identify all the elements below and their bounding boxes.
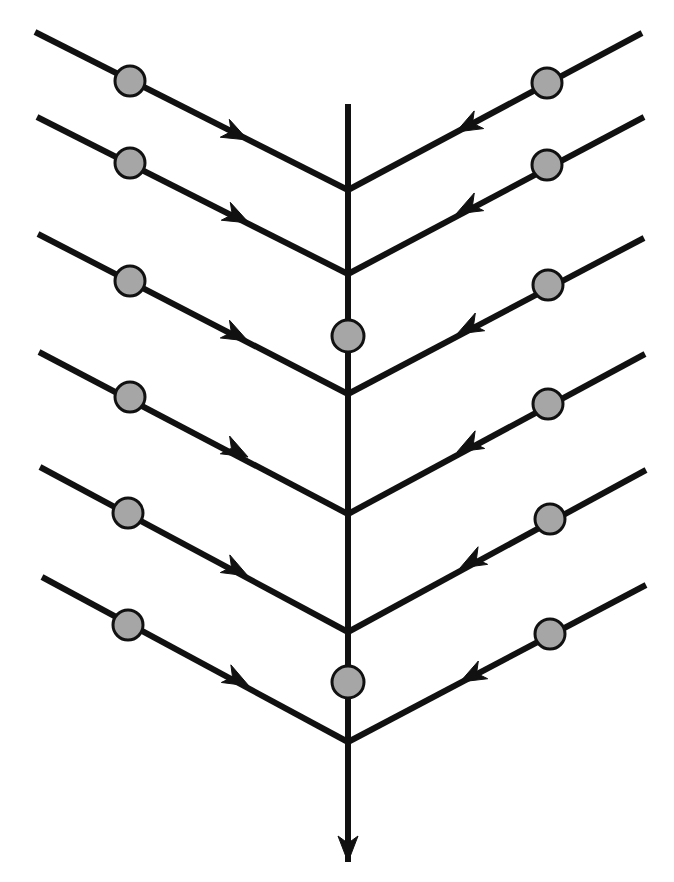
right-branch-4-node <box>533 389 563 419</box>
herringbone-diagram-canvas <box>0 0 674 882</box>
left-branch-1-node-circle[interactable] <box>115 66 145 96</box>
right-branch-3-node <box>533 270 563 300</box>
left-branch-4-node <box>115 382 145 412</box>
right-branch-5-node <box>535 504 565 534</box>
right-branch-2-node <box>532 150 562 180</box>
right-branch-1-node <box>532 68 562 98</box>
right-branch-2-node-circle[interactable] <box>532 150 562 180</box>
left-branch-6-node <box>113 610 143 640</box>
right-branch-1-node-circle[interactable] <box>532 68 562 98</box>
spine-node-1[interactable] <box>332 320 364 352</box>
right-branch-3-node-circle[interactable] <box>533 270 563 300</box>
right-branch-6-node <box>535 619 565 649</box>
left-branch-3-node <box>115 266 145 296</box>
right-branch-6-node-circle[interactable] <box>535 619 565 649</box>
left-branch-6-node-circle[interactable] <box>113 610 143 640</box>
left-branch-3-node-circle[interactable] <box>115 266 145 296</box>
left-branch-2-node-circle[interactable] <box>115 148 145 178</box>
canvas-background <box>0 0 674 882</box>
diagram-root <box>0 0 674 882</box>
left-branch-5-node <box>113 498 143 528</box>
left-branch-5-node-circle[interactable] <box>113 498 143 528</box>
right-branch-4-node-circle[interactable] <box>533 389 563 419</box>
left-branch-1-node <box>115 66 145 96</box>
left-branch-2-node <box>115 148 145 178</box>
spine-node-2[interactable] <box>332 666 364 698</box>
left-branch-4-node-circle[interactable] <box>115 382 145 412</box>
right-branch-5-node-circle[interactable] <box>535 504 565 534</box>
